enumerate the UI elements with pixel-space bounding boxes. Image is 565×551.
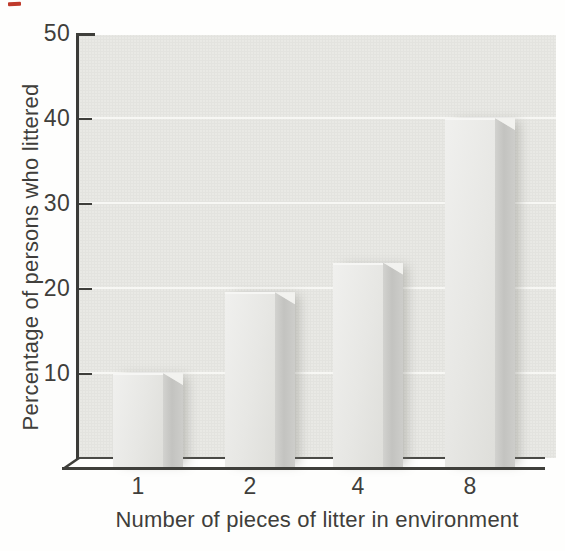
litter-bar-chart-figure: 10203040501248 Number of pieces of litte… [0, 0, 565, 551]
bar-front-face [225, 292, 275, 468]
y-tick-50 [76, 33, 95, 36]
bar-side-face [495, 118, 515, 468]
x-tick-label-4: 4 [352, 473, 365, 500]
bar-8 [445, 118, 515, 468]
x-axis-title: Number of pieces of litter in environmen… [78, 507, 556, 533]
x-tick-label-2: 2 [244, 473, 257, 500]
y-tick-40 [79, 118, 92, 120]
bar-side-face [275, 292, 295, 468]
bar-2 [225, 292, 295, 468]
bar-side-face [383, 263, 403, 469]
bar-front-face [333, 263, 383, 469]
bar-front-face [445, 118, 495, 468]
bar-4 [333, 263, 403, 469]
y-tick-label-50: 50 [0, 20, 70, 47]
y-tick-20 [79, 288, 92, 290]
x-tick-label-8: 8 [464, 473, 477, 500]
x-axis-front-line [62, 467, 545, 470]
y-tick-10 [79, 373, 92, 375]
bar-1 [113, 373, 183, 468]
y-tick-30 [79, 203, 92, 205]
red-print-mark [8, 2, 21, 6]
bar-front-face [113, 373, 163, 468]
bar-side-face [163, 373, 183, 468]
y-axis-line [76, 33, 79, 459]
x-tick-label-1: 1 [132, 473, 145, 500]
y-axis-title: Percentage of persons who littered [18, 84, 44, 431]
